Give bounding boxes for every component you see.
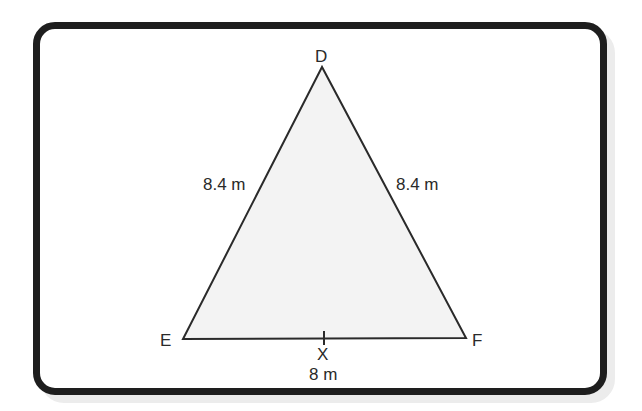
vertex-f-label: F (472, 331, 482, 350)
side-ef-length: 8 m (309, 365, 337, 384)
side-df-length: 8.4 m (396, 175, 439, 194)
side-de-length: 8.4 m (203, 175, 246, 194)
vertex-d-label: D (315, 47, 327, 66)
triangle-def (183, 67, 466, 339)
triangle-diagram: D E F 8.4 m 8.4 m X 8 m (0, 0, 642, 411)
midpoint-x-label: X (317, 345, 328, 364)
vertex-e-label: E (160, 331, 171, 350)
